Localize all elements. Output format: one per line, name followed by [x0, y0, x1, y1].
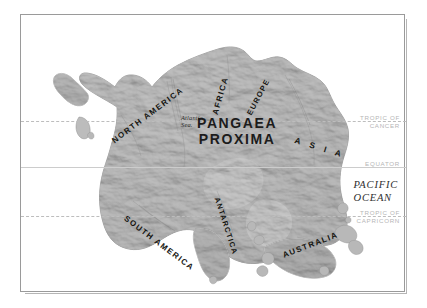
- equator-line: [21, 167, 406, 168]
- tropic-of-cancer-label: TROPIC OF CANCER: [360, 114, 400, 129]
- tropic-of-capricorn-line: [21, 216, 406, 217]
- pangaea-proxima-title: PANGAEA PROXIMA: [197, 115, 277, 147]
- pangaea-landmass-illustration: [21, 15, 406, 293]
- tropic-of-capricorn-label: TROPIC OF CAPRICORN: [357, 209, 400, 224]
- map-page: TROPIC OF CANCER EQUATOR TROPIC OF CAPRI…: [0, 0, 427, 308]
- equator-label: EQUATOR: [365, 160, 400, 168]
- map-frame: TROPIC OF CANCER EQUATOR TROPIC OF CAPRI…: [20, 14, 405, 292]
- landmass-group: [21, 15, 406, 293]
- map-canvas: TROPIC OF CANCER EQUATOR TROPIC OF CAPRI…: [21, 15, 406, 293]
- pacific-ocean-label: PACIFIC OCEAN: [354, 178, 399, 204]
